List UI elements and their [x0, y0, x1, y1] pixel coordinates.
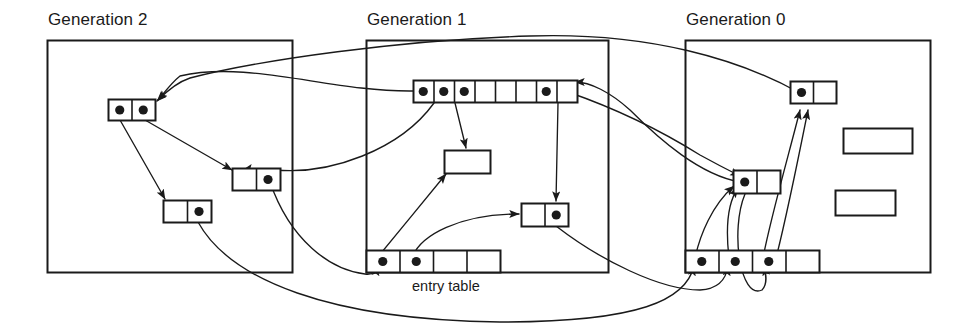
node-outline-g0-empty-box-2	[836, 191, 896, 216]
object-node-g1-entry-table	[367, 251, 501, 273]
object-node-g0-empty-box-2	[836, 191, 896, 216]
pointer-arrow-p-g1e0-to-g1empty	[377, 174, 446, 258]
pointer-dot-g1-node-d-1	[552, 210, 561, 219]
pointer-dot-g0-node-f-0	[740, 177, 749, 186]
pointer-dot-g2-node-b-1	[263, 175, 272, 184]
pointer-arrow-p-g1a1-to-g2b	[243, 103, 434, 171]
pointer-arrow-p-g1a2-to-g1empty	[455, 103, 466, 148]
diagram-canvas: Generation 2Generation 1entry tableGener…	[0, 0, 968, 331]
object-node-g0-empty-box-1	[844, 129, 913, 154]
generation-box-0	[48, 41, 293, 273]
generation-title-1: Generation 1	[367, 10, 467, 30]
pointer-arrow-p-g0f-to-g0e2	[738, 194, 766, 291]
pointer-dot-g1-array-6	[542, 87, 551, 96]
object-node-g2-node-b	[233, 169, 281, 191]
pointer-dot-g1-array-2	[460, 87, 469, 96]
pointer-arrow-p-g1a6-to-g1d	[556, 103, 558, 201]
pointer-arrow-p-g1a0-to-g2a	[157, 72, 413, 101]
pointer-dot-g2-node-c-1	[194, 207, 203, 216]
object-node-g2-node-c	[164, 201, 212, 223]
pointer-arrow-p-g2a-right-to-g2b	[145, 120, 232, 170]
object-node-g0-node-e	[791, 82, 837, 104]
pointer-dot-g0-entry-table-1	[731, 257, 740, 266]
pointer-arrow-p-g2a-left-to-g2c	[120, 120, 165, 199]
memory-graph-svg	[0, 0, 968, 331]
entry-table-label-1: entry table	[412, 278, 480, 294]
pointer-dot-g0-entry-table-0	[697, 257, 706, 266]
generation-title-0: Generation 2	[48, 10, 148, 30]
object-node-g1-array	[414, 81, 578, 103]
object-node-g1-empty-box	[445, 151, 491, 174]
generation-box-2	[686, 41, 931, 273]
pointer-arrow-p-g0f-to-g1a	[575, 82, 740, 182]
object-node-g0-entry-table	[686, 251, 820, 273]
pointer-dot-g2-node-a-1	[139, 105, 148, 114]
pointer-dot-g1-entry-table-0	[378, 257, 387, 266]
pointer-dot-g1-entry-table-1	[412, 257, 421, 266]
pointer-dot-g1-array-0	[419, 87, 428, 96]
object-nodes-group	[109, 81, 913, 273]
object-node-g0-node-f	[734, 171, 781, 194]
node-outline-g0-empty-box-1	[844, 129, 913, 154]
pointer-dot-g0-node-e-0	[797, 88, 806, 97]
generation-title-2: Generation 0	[686, 10, 786, 30]
pointer-arrow-p-g0e1-to-g0f	[727, 188, 738, 258]
pointer-dot-g1-array-1	[439, 87, 448, 96]
node-outline-g1-empty-box	[445, 151, 491, 174]
pointer-arrow-p-g2b-to-g1e0	[270, 182, 377, 274]
object-node-g1-node-d	[522, 204, 569, 227]
pointer-dot-g2-node-a-0	[115, 105, 124, 114]
object-node-g2-node-a	[109, 100, 156, 121]
pointer-arrow-p-g1a6b-to-g0f	[568, 92, 740, 176]
pointer-dot-g0-entry-table-2	[764, 257, 773, 266]
